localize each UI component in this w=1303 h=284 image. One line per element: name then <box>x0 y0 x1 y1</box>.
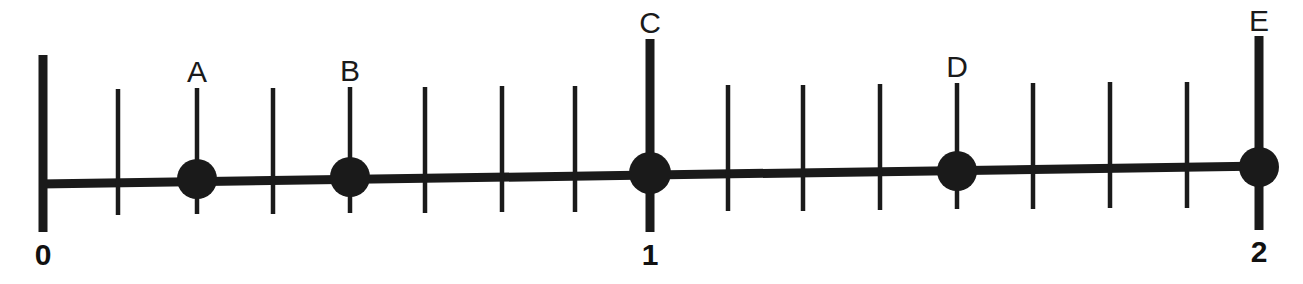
point-dot-a <box>177 159 217 199</box>
point-dot-b <box>330 157 370 197</box>
point-dot-c <box>629 152 671 194</box>
axis-label-two: 2 <box>1251 235 1268 268</box>
point-label-b: B <box>340 54 360 87</box>
point-label-a: A <box>187 55 207 88</box>
number-line-canvas: A B C D E 0 1 2 <box>0 0 1303 284</box>
number-line-figure: A B C D E 0 1 2 <box>0 0 1303 284</box>
point-label-e: E <box>1249 4 1269 37</box>
axis-label-one: 1 <box>642 238 659 271</box>
point-dot-d <box>937 151 977 191</box>
point-dot-e <box>1239 147 1279 187</box>
point-label-d: D <box>946 50 968 83</box>
point-label-c: C <box>639 6 661 39</box>
axis-label-zero: 0 <box>35 238 52 271</box>
